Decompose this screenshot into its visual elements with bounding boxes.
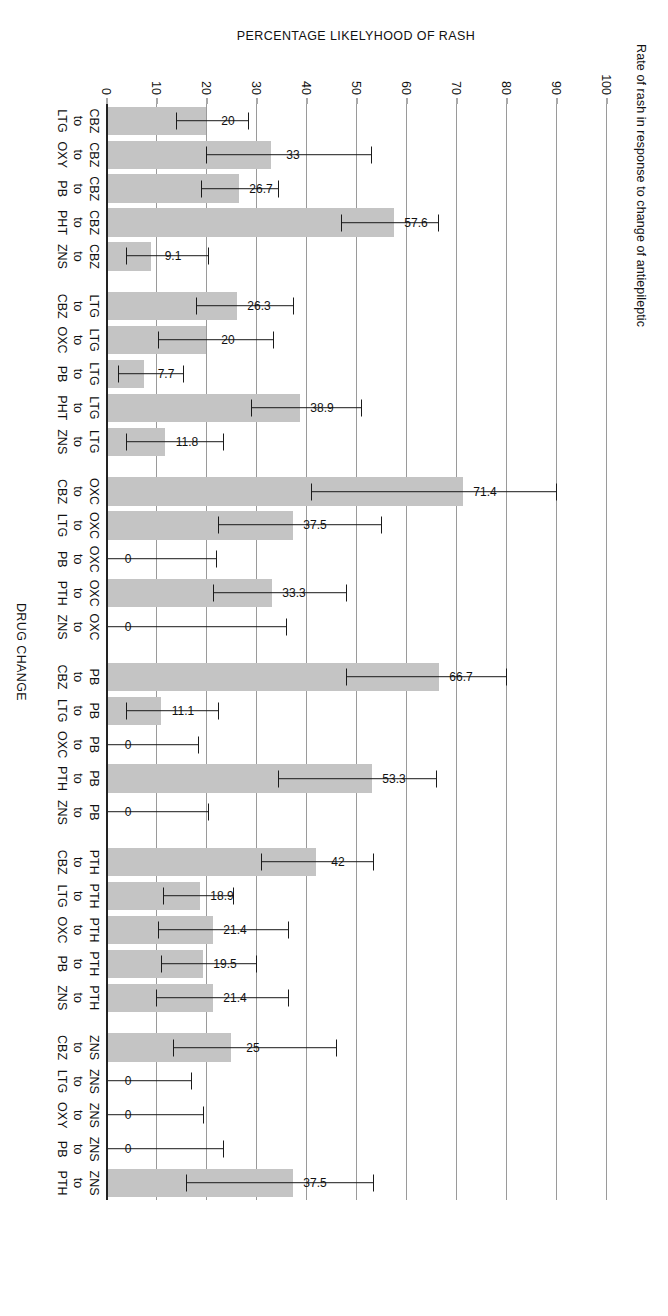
x-tick-label-to: PTH bbox=[54, 576, 70, 610]
x-tick-label-from: PB bbox=[86, 795, 102, 829]
error-bar-cap-lower bbox=[174, 1039, 175, 1056]
bar-value-label: 25 bbox=[247, 1041, 259, 1054]
bar-value-label: 18.9 bbox=[217, 884, 229, 907]
bar-value-label: 37.5 bbox=[310, 514, 322, 537]
bar-group-item[interactable]: 33.3 bbox=[106, 576, 606, 610]
y-tick-label: 100 bbox=[599, 74, 613, 104]
x-tick-label: OXCtoZNS bbox=[54, 610, 102, 644]
bar-group-item[interactable]: 42 bbox=[106, 845, 606, 879]
x-tick-label-from: PTH bbox=[86, 981, 102, 1015]
bar-group-item[interactable]: 19.5 bbox=[106, 947, 606, 981]
bar-group-item[interactable]: 0 bbox=[106, 610, 606, 644]
x-tick-label-from: PB bbox=[86, 728, 102, 762]
bar-group-item[interactable]: 9.1 bbox=[106, 239, 606, 273]
bar-value-text: 11.8 bbox=[176, 436, 198, 448]
bar-value-text: 20 bbox=[221, 334, 234, 346]
x-tick-label-connector: to bbox=[70, 509, 86, 543]
y-tick-label: 10 bbox=[149, 81, 163, 104]
error-bar-cap-upper bbox=[274, 332, 275, 349]
bar-group-item[interactable]: 0 bbox=[106, 795, 606, 829]
x-tick-label-from: OXC bbox=[86, 509, 102, 543]
bar-value-text: 37.5 bbox=[304, 1177, 327, 1189]
bar-value-label: 37.5 bbox=[310, 1171, 322, 1194]
bar-group-item[interactable]: 53.3 bbox=[106, 762, 606, 796]
x-tick-label: OXCtoCBZ bbox=[54, 475, 102, 509]
error-bar-cap-upper bbox=[191, 1073, 192, 1090]
x-tick-label: PTHtoCBZ bbox=[54, 845, 102, 879]
x-tick-label: ZNStoLTG bbox=[54, 1065, 102, 1099]
bar-group-item[interactable]: 11.8 bbox=[106, 425, 606, 459]
y-tick-label: 70 bbox=[449, 81, 463, 104]
x-tick-label-to: ZNS bbox=[54, 239, 70, 273]
error-bar-line bbox=[279, 778, 437, 779]
bar-group-item[interactable]: 0 bbox=[106, 542, 606, 576]
x-tick-label-to: PB bbox=[54, 1132, 70, 1166]
bar-value-text: 7.7 bbox=[158, 368, 175, 380]
bar-group-item[interactable]: 0 bbox=[106, 1065, 606, 1099]
x-tick-label: CBZtoZNS bbox=[54, 239, 102, 273]
bar-group-item[interactable]: 21.4 bbox=[106, 913, 606, 947]
error-bar-cap-lower bbox=[119, 365, 120, 382]
error-bar-cap-lower bbox=[341, 214, 342, 231]
error-bar-line bbox=[219, 525, 382, 526]
error-bar-cap-upper bbox=[556, 483, 557, 500]
bar-value-text: 18.9 bbox=[211, 890, 234, 902]
bar-group-item[interactable]: 20 bbox=[106, 323, 606, 357]
bar-group-item[interactable]: 57.6 bbox=[106, 206, 606, 240]
bar-value-label: 33.3 bbox=[289, 582, 301, 605]
x-tick-label-to: PB bbox=[54, 172, 70, 206]
error-bar-cap-lower bbox=[279, 770, 280, 787]
error-bar-cap-lower bbox=[201, 180, 202, 197]
error-bar-line bbox=[346, 676, 506, 677]
x-tick-label-connector: to bbox=[70, 239, 86, 273]
error-bar-cap-lower bbox=[159, 921, 160, 938]
x-tick-label-from: CBZ bbox=[86, 104, 102, 138]
bar-group-item[interactable]: 71.4 bbox=[106, 475, 606, 509]
bar-group-item[interactable]: 37.5 bbox=[106, 1166, 606, 1200]
x-tick-label-from: LTG bbox=[86, 425, 102, 459]
x-tick-label-connector: to bbox=[70, 104, 86, 138]
bar-group-item[interactable]: 33 bbox=[106, 138, 606, 172]
y-tick-label: 60 bbox=[399, 81, 413, 104]
bar-group-item[interactable]: 26.3 bbox=[106, 289, 606, 323]
bar-value-label: 33 bbox=[287, 148, 299, 161]
error-bar-cap-lower bbox=[156, 989, 157, 1006]
x-tick-label-from: PTH bbox=[86, 845, 102, 879]
x-tick-label: OXCtoPTH bbox=[54, 576, 102, 610]
x-tick-label: CBZtoPB bbox=[54, 172, 102, 206]
x-tick-label-connector: to bbox=[70, 660, 86, 694]
x-tick-label-from: CBZ bbox=[86, 138, 102, 172]
bar-value-label: 0 bbox=[122, 741, 134, 748]
bar-group-item[interactable]: 66.7 bbox=[106, 660, 606, 694]
x-tick-label-to: LTG bbox=[54, 694, 70, 728]
error-bar-cap-upper bbox=[346, 585, 347, 602]
error-bar-cap-upper bbox=[436, 770, 437, 787]
bar-value-label: 0 bbox=[122, 556, 134, 563]
x-tick-label-to: PHT bbox=[54, 206, 70, 240]
x-tick-label-connector: to bbox=[70, 391, 86, 425]
bar-value-text: 57.6 bbox=[404, 217, 427, 229]
bar-group-item[interactable]: 26.7 bbox=[106, 172, 606, 206]
bar-group-item[interactable]: 18.9 bbox=[106, 879, 606, 913]
error-bar-cap-upper bbox=[294, 298, 295, 315]
y-tick-label: 0 bbox=[99, 88, 113, 104]
bar-group-item[interactable]: 21.4 bbox=[106, 981, 606, 1015]
bar-group-item[interactable]: 0 bbox=[106, 1098, 606, 1132]
bar-value-text: 11.1 bbox=[172, 705, 194, 717]
bar-group-item[interactable]: 25 bbox=[106, 1031, 606, 1065]
bar-group-item[interactable]: 37.5 bbox=[106, 509, 606, 543]
bar-group-item[interactable]: 0 bbox=[106, 728, 606, 762]
bar-group-item[interactable]: 0 bbox=[106, 1132, 606, 1166]
bar-group-item[interactable]: 38.9 bbox=[106, 391, 606, 425]
error-bar-cap-upper bbox=[374, 854, 375, 871]
bar-group-item[interactable]: 7.7 bbox=[106, 357, 606, 391]
x-tick-label-from: LTG bbox=[86, 323, 102, 357]
error-bar-cap-lower bbox=[161, 955, 162, 972]
x-tick-label: PBtoCBZ bbox=[54, 660, 102, 694]
bar-group-item[interactable]: 20 bbox=[106, 104, 606, 138]
bar-value-label: 38.9 bbox=[317, 396, 329, 419]
bar-group-item[interactable]: 11.1 bbox=[106, 694, 606, 728]
x-tick-label: ZNStoPB bbox=[54, 1132, 102, 1166]
bar-value-label: 11.8 bbox=[181, 430, 193, 452]
x-tick-label-connector: to bbox=[70, 1098, 86, 1132]
